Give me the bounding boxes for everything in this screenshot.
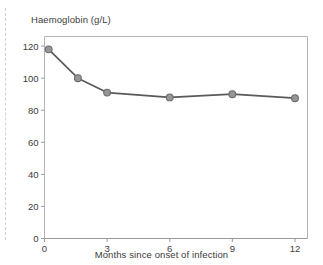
data-point-0[interactable] — [45, 46, 52, 53]
data-point-3[interactable] — [166, 94, 173, 101]
y-tick-label-20: 20 — [28, 201, 39, 212]
data-point-1[interactable] — [74, 75, 81, 82]
data-point-2[interactable] — [104, 89, 111, 96]
y-tick-label-120: 120 — [23, 41, 39, 52]
y-tick-label-0: 0 — [33, 233, 38, 244]
data-point-5[interactable] — [292, 95, 299, 102]
y-tick-label-60: 60 — [28, 137, 39, 148]
y-tick-label-100: 100 — [23, 73, 39, 84]
chart-figure: Haemoglobin (g/L) 020406080100120036912 … — [0, 0, 323, 265]
y-tick-label-40: 40 — [28, 169, 39, 180]
series-line-0 — [49, 49, 295, 98]
x-axis-title: Months since onset of infection — [0, 249, 323, 260]
y-tick-label-80: 80 — [28, 105, 39, 116]
plot-frame — [45, 37, 308, 239]
line-chart-plot: 020406080100120036912 — [0, 0, 323, 265]
data-point-4[interactable] — [229, 91, 236, 98]
